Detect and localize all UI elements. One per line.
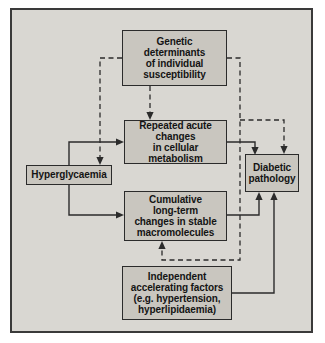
edge-cumulative-to-diabetic (227, 192, 263, 215)
node-independent-accelerating-factors[interactable]: Independentaccelerating factors(e.g. hyp… (122, 266, 232, 320)
edge-independent-to-diabetic (232, 192, 278, 293)
diagram-canvas: Geneticdeterminantsof individualsuscepti… (0, 0, 325, 343)
node-diabetic-pathology[interactable]: Diabeticpathology (245, 154, 299, 192)
node-genetic-determinants[interactable]: Geneticdeterminantsof individualsuscepti… (122, 30, 227, 86)
node-hyperglycaemia-label: Hyperglycaemia (29, 169, 108, 180)
node-cumulative-long-term-changes[interactable]: Cumulativelong-termchanges in stablemacr… (124, 191, 227, 241)
edge-hyperglycaemia-to-cumulative (69, 185, 124, 219)
node-diabetic-pathology-label: Diabeticpathology (247, 162, 298, 184)
node-independent-accelerating-factors-label: Independentaccelerating factors(e.g. hyp… (129, 271, 226, 316)
node-genetic-determinants-label: Geneticdeterminantsof individualsuscepti… (141, 36, 208, 81)
edge-genetic-to-hyperglycaemia (96, 58, 122, 165)
edge-genetic-to-repeated (146, 86, 153, 120)
edge-genetic-to-diabetic (240, 120, 288, 154)
diagram-frame: Geneticdeterminantsof individualsuscepti… (10, 8, 313, 333)
node-repeated-acute-changes-label: Repeated acutechangesin cellularmetaboli… (137, 120, 214, 165)
node-repeated-acute-changes[interactable]: Repeated acutechangesin cellularmetaboli… (124, 120, 227, 164)
node-cumulative-long-term-changes-label: Cumulativelong-termchanges in stablemacr… (132, 194, 218, 239)
edge-hyperglycaemia-to-repeated (69, 138, 124, 165)
node-hyperglycaemia[interactable]: Hyperglycaemia (26, 165, 112, 185)
